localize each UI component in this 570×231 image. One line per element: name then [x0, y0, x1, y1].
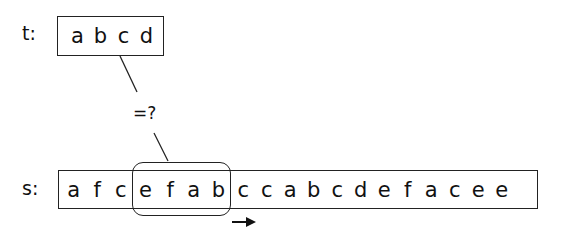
text-char: c [232, 178, 256, 202]
text-label: s: [22, 177, 38, 199]
connector-line-top [120, 56, 137, 92]
text-char: c [255, 178, 279, 202]
text-char: b [302, 178, 326, 202]
text-char: e [490, 178, 514, 202]
text-char: a [62, 178, 86, 202]
text-char: a [420, 178, 444, 202]
text-char: e [467, 178, 491, 202]
comparison-window [132, 162, 231, 216]
text-box: a f c e f a b c c a b c d e f a c e e [58, 170, 538, 209]
text-chars: a f c e f a b c c a b c d e f a c e e [62, 171, 514, 208]
arrow-right-icon [232, 217, 256, 227]
text-char: c [326, 178, 350, 202]
connector-line-bottom [154, 133, 168, 161]
text-char: c [109, 178, 133, 202]
text-char: f [396, 178, 420, 202]
text-char: a [279, 178, 303, 202]
text-char: e [373, 178, 397, 202]
text-char: c [443, 178, 467, 202]
text-char: d [349, 178, 373, 202]
text-char: f [86, 178, 110, 202]
comparison-label: =? [133, 103, 156, 123]
